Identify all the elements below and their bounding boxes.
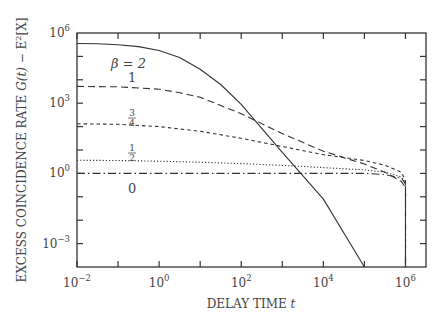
x-tick-labels: 10−2100102104106	[63, 273, 416, 290]
y-tick-label: 100	[49, 163, 70, 180]
y-tick-labels: 10610310010−3	[42, 23, 70, 251]
label-beta-2: β = 2	[110, 56, 146, 71]
curve--1	[77, 86, 406, 267]
x-tick-label: 102	[231, 273, 252, 290]
svg-text:1: 1	[129, 143, 135, 153]
x-tick-label: 104	[313, 273, 334, 290]
x-tick-label: 106	[395, 273, 416, 290]
x-tick-label: 100	[149, 273, 170, 290]
label-beta-1: 1	[128, 70, 136, 85]
label-beta-one-half: 1 2	[128, 143, 136, 163]
svg-text:4: 4	[129, 118, 135, 128]
y-tick-label: 103	[49, 93, 70, 110]
y-axis-title: EXCESS COINCIDENCE RATE G(t) − E2[X]	[14, 18, 29, 283]
x-axis-title: DELAY TIME t	[207, 297, 296, 311]
svg-text:2: 2	[129, 153, 135, 163]
chart-canvas: 10−2100102104106 10610310010−3 DELAY TIM…	[0, 0, 445, 318]
label-beta-0: 0	[128, 181, 136, 196]
curve--1-2	[77, 160, 406, 267]
curves-group	[77, 44, 406, 268]
y-tick-label: 106	[49, 23, 70, 40]
x-tick-label: 10−2	[63, 273, 91, 290]
y-tick-label: 10−3	[42, 234, 70, 251]
svg-text:3: 3	[129, 108, 135, 118]
label-beta-three-quarters: 3 4	[128, 108, 136, 128]
curve--2	[77, 44, 364, 268]
curve--3-4	[77, 124, 406, 267]
